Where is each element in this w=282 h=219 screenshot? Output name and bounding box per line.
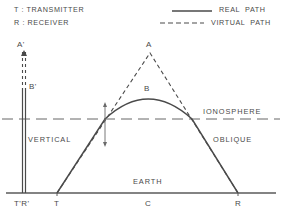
virtual-height-tick-arrow-up [103, 102, 107, 107]
axis-label-transmitter: T [54, 200, 59, 208]
axis-label-center: C [145, 200, 151, 208]
label-earth: EARTH [133, 178, 162, 185]
label-a-prime: A' [17, 41, 25, 49]
legend-label-virtual-path: VIRTUAL PATH [211, 19, 271, 26]
label-b-prime: B' [29, 83, 37, 91]
axis-label-receiver: R [235, 200, 241, 208]
axis-label-t-prime-r-prime: T'R' [14, 200, 29, 208]
virtual-path-triangle [57, 53, 238, 193]
legend-key-transmitter: T : TRANSMITTER [14, 6, 84, 13]
label-apex-virtual-a: A [146, 41, 152, 49]
vertical-ray-arrowhead-up [21, 50, 27, 56]
virtual-height-tick-arrow-down [103, 142, 107, 147]
label-ionosphere: IONOSPHERE [203, 108, 261, 115]
label-oblique: OBLIQUE [213, 136, 252, 143]
ionospheric-propagation-diagram: T : TRANSMITTER R : RECEIVER REAL PATH V… [0, 0, 282, 219]
legend-key-receiver: R : RECEIVER [14, 19, 69, 26]
legend-label-real-path: REAL PATH [219, 6, 266, 13]
label-vertical: VERTICAL [28, 136, 71, 143]
label-apex-real-b: B [144, 85, 150, 93]
